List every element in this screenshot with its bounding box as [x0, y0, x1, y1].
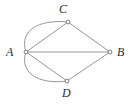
vertex-marker-c — [66, 20, 70, 24]
edge-a-d-arc — [25, 52, 67, 82]
graph-figure: A B C D — [0, 0, 135, 105]
vertex-label-b: B — [117, 46, 124, 58]
edge-c-b — [68, 22, 110, 52]
vertex-marker-b — [108, 50, 112, 54]
vertex-label-d: D — [62, 87, 71, 99]
vertex-group — [24, 20, 112, 83]
edge-a-c — [26, 22, 68, 52]
vertex-marker-a — [24, 50, 28, 54]
vertex-label-a: A — [6, 46, 13, 58]
edge-group — [25, 22, 110, 82]
edge-d-b — [67, 52, 110, 81]
vertex-label-c: C — [59, 3, 67, 15]
vertex-marker-d — [65, 79, 69, 83]
edge-a-d — [26, 52, 67, 81]
